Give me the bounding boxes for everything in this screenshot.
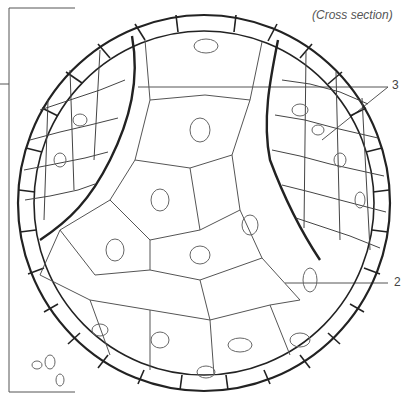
sphere-outline (18, 15, 390, 391)
right-cluster-boundary (267, 40, 320, 260)
outer-cell-ring (19, 15, 389, 390)
left-cluster-boundary (40, 36, 135, 240)
left-bracket (0, 8, 75, 392)
small-cells-left (24, 50, 125, 220)
blastula-drawing (0, 0, 406, 394)
